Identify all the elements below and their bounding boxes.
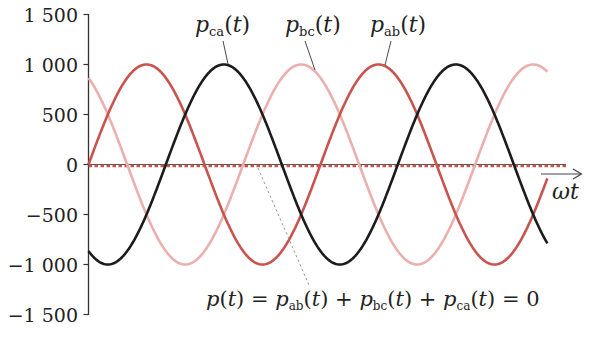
leader-pab: [385, 41, 391, 65]
y-tick-label: 0: [66, 154, 78, 176]
label-leaders: [223, 41, 391, 285]
y-axis: 1 5001 0005000−500−1 000−1 500: [8, 4, 89, 326]
label-p-bc: pbc(t): [285, 12, 341, 39]
leader-p-total: [258, 168, 309, 285]
y-tick-label: −1 500: [8, 304, 78, 326]
label-p-ca: pca(t): [195, 12, 250, 39]
three-phase-power-chart: 1 5001 0005000−500−1 000−1 500 ωt pca(t)…: [0, 0, 589, 337]
y-tick-label: 500: [42, 104, 78, 126]
y-tick-label: −500: [26, 204, 78, 226]
label-p-ab: pab(t): [370, 12, 426, 39]
y-tick-label: 1 500: [24, 4, 78, 26]
x-axis-label: ωt: [552, 179, 579, 204]
sum-equation: p(t) = pab(t) + pbc(t) + pca(t) = 0: [206, 287, 540, 313]
y-tick-label: −1 000: [8, 254, 78, 276]
y-ticks: 1 5001 0005000−500−1 000−1 500: [8, 4, 89, 326]
leader-pca: [223, 41, 228, 64]
y-tick-label: 1 000: [24, 54, 78, 76]
